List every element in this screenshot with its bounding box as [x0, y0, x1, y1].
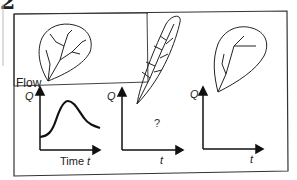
- hydrograph-1-axes: [36, 87, 100, 154]
- basin-round: [39, 24, 91, 81]
- x-axis-label-time: Time t: [60, 155, 90, 167]
- y-axis-symbol-q-2: Q: [107, 90, 116, 102]
- hydrograph-1-curve: [40, 101, 100, 137]
- x-axis-symbol-t-2: t: [160, 154, 163, 166]
- hydrograph-3-axes: [199, 87, 263, 153]
- figure: 2: [0, 0, 297, 180]
- basin-sparse: [214, 27, 266, 92]
- y-axis-label-flow: Flow: [16, 76, 41, 90]
- hydrograph-2-axes: [118, 88, 183, 154]
- basin-elongated: [137, 16, 180, 104]
- x-symbol-t-1: t: [87, 155, 90, 167]
- y-axis-symbol-q-1: Q: [25, 90, 34, 102]
- unknown-hydrograph-placeholder: ?: [154, 117, 160, 129]
- y-axis-symbol-q-3: Q: [190, 88, 199, 100]
- x-label-text: Time: [60, 155, 84, 167]
- x-axis-symbol-t-3: t: [250, 153, 253, 165]
